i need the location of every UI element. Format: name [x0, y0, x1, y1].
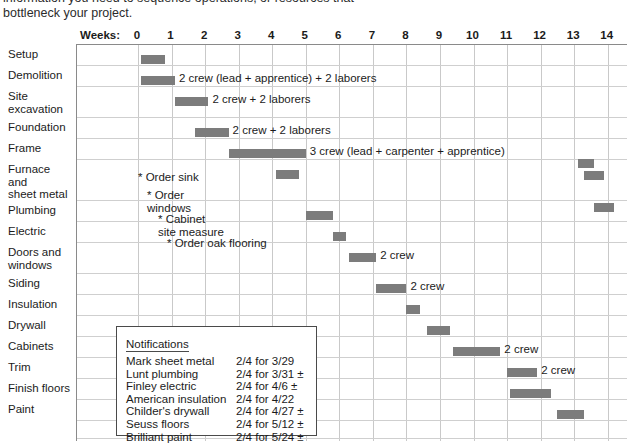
week-tick-5: 5 [302, 29, 308, 41]
gridline-week-6 [339, 45, 340, 441]
row-label-siding: Siding [8, 277, 74, 290]
row-label-setup: Setup [8, 48, 74, 61]
gantt-bar [349, 253, 376, 262]
row-label-demolition: Demolition [8, 69, 74, 82]
week-tick-13: 13 [567, 29, 580, 41]
row-label-line: and [8, 176, 74, 189]
week-tick-3: 3 [234, 29, 240, 41]
row-divider-7 [77, 242, 627, 243]
week-tick-11: 11 [500, 29, 512, 41]
row-label-line: Setup [8, 48, 74, 61]
row-label-line: windows [8, 259, 74, 272]
week-tick-14: 14 [600, 29, 613, 41]
notification-row: Brilliant paint2/4 for 5/24 ± [126, 431, 307, 443]
row-label-drywall: Drywall [8, 319, 74, 332]
notification-name: American insulation [126, 393, 236, 406]
annotation-line: * Order oak flooring [167, 237, 267, 250]
row-label-line: Cabinets [8, 340, 74, 353]
week-tick-8: 8 [402, 29, 408, 41]
row-label-line: Electric [8, 225, 74, 238]
row-label-line: Plumbing [8, 204, 74, 217]
notification-date: 2/4 for 5/12 ± [236, 418, 304, 431]
gantt-bar [306, 211, 333, 220]
notification-row: Seuss floors2/4 for 5/12 ± [126, 418, 307, 431]
bar-crew-label: 2 crew [380, 249, 414, 261]
week-tick-1: 1 [167, 29, 173, 41]
row-label-plumbing: Plumbing [8, 204, 74, 217]
gantt-bar [141, 76, 175, 85]
row-label-line: Trim [8, 361, 74, 374]
row-label-line: Finish floors [8, 382, 74, 395]
notification-date: 2/4 for 5/24 ± [236, 431, 304, 443]
row-label-line: Drywall [8, 319, 74, 332]
bar-crew-label: 2 crew (lead + apprentice) + 2 laborers [179, 72, 377, 84]
gantt-bar [427, 326, 450, 335]
chart-annotation: * Order sink [138, 171, 199, 184]
gridline-week-9 [440, 45, 441, 441]
row-divider-10 [77, 315, 627, 316]
row-label-trim: Trim [8, 361, 74, 374]
week-tick-4: 4 [268, 29, 274, 41]
chart-annotation: * Cabinetsite measure [158, 213, 224, 238]
annotation-line: * Cabinet [158, 213, 224, 226]
row-label-line: Siding [8, 277, 74, 290]
row-label-line: Doors and [8, 246, 74, 259]
row-label-insulation: Insulation [8, 298, 74, 311]
row-label-line: excavation [8, 103, 74, 116]
row-divider-3 [77, 138, 627, 139]
notification-name: Childer's drywall [126, 405, 236, 418]
gridline-week-7 [373, 45, 374, 441]
notification-name: Finley electric [126, 380, 236, 393]
annotation-line: * Order [147, 189, 191, 202]
row-label-line: Furnace [8, 163, 74, 176]
gantt-bar [557, 410, 584, 419]
row-divider-9 [77, 294, 627, 295]
row-label-doors-and: Doors andwindows [8, 246, 74, 271]
row-label-line: Site [8, 90, 74, 103]
week-tick-7: 7 [369, 29, 375, 41]
notification-date: 2/4 for 3/29 [236, 355, 294, 368]
notification-date: 2/4 for 3/31 ± [236, 368, 304, 381]
chart-annotation: * Order oak flooring [167, 237, 267, 250]
notification-row: Finley electric2/4 for 4/6 ± [126, 380, 307, 393]
row-label-site: Siteexcavation [8, 90, 74, 115]
notification-name: Seuss floors [126, 418, 236, 431]
row-label-finish-floors: Finish floors [8, 382, 74, 395]
gantt-bar [594, 203, 614, 212]
week-tick-2: 2 [201, 29, 207, 41]
notification-row: Childer's drywall2/4 for 4/27 ± [126, 405, 307, 418]
gridline-week-13 [574, 45, 575, 441]
gridline-week-11 [507, 45, 508, 441]
notification-date: 2/4 for 4/27 ± [236, 405, 304, 418]
notifications-title: Notifications [126, 338, 189, 352]
gantt-bar [376, 284, 406, 293]
week-tick-12: 12 [533, 29, 546, 41]
row-label-line: Foundation [8, 121, 74, 134]
row-label-line: Frame [8, 142, 74, 155]
notifications-list: Mark sheet metal2/4 for 3/29Lunt plumbin… [126, 355, 307, 443]
notification-row: Mark sheet metal2/4 for 3/29 [126, 355, 307, 368]
notification-name: Brilliant paint [126, 431, 236, 443]
gantt-bar [453, 347, 500, 356]
row-label-line: sheet metal [8, 188, 74, 201]
gantt-bar [507, 368, 537, 377]
gantt-bar [175, 97, 209, 106]
notification-date: 2/4 for 4/6 ± [236, 380, 297, 393]
gantt-bar [510, 389, 550, 398]
gantt-bar [229, 149, 306, 158]
gantt-bar [578, 159, 595, 168]
notification-row: Lunt plumbing2/4 for 3/31 ± [126, 368, 307, 381]
row-label-frame: Frame [8, 142, 74, 155]
row-divider-0 [77, 65, 627, 66]
week-tick-9: 9 [436, 29, 442, 41]
notification-name: Mark sheet metal [126, 355, 236, 368]
row-divider-1 [77, 86, 627, 87]
gridline-week-12 [541, 45, 542, 441]
weeks-caption: Weeks: [80, 29, 120, 41]
week-tick-10: 10 [466, 29, 479, 41]
row-label-paint: Paint [8, 403, 74, 416]
gantt-bar [333, 232, 346, 241]
gridline-week-8 [406, 45, 407, 441]
row-label-foundation: Foundation [8, 121, 74, 134]
